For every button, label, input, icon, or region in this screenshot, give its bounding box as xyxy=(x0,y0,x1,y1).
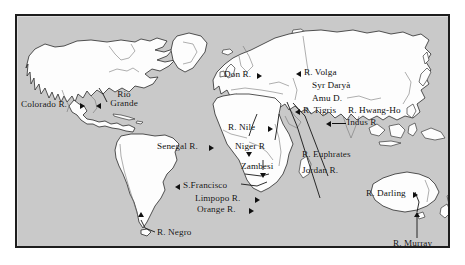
arrow-don-river xyxy=(257,73,262,79)
label-nile-river: R. Nile xyxy=(228,123,255,133)
label-limpopo-river: Limpopo R. xyxy=(195,194,240,204)
label-jordan-river: Jordan R. xyxy=(302,166,338,176)
label-colorado-river: Colorado R. xyxy=(21,100,67,110)
label-orange-river: Orange R. xyxy=(197,205,236,215)
island-iceland xyxy=(222,49,233,55)
label-don-river: Don R. xyxy=(224,70,251,80)
label-negro-river: R. Negro xyxy=(157,228,191,238)
label-hwang-ho-river: R. Hwang-Ho xyxy=(348,106,401,116)
arrow-orange-river xyxy=(249,208,254,214)
island-cuba xyxy=(113,114,135,120)
label-indus-river: Indus R xyxy=(347,118,377,128)
island-new-guinea xyxy=(421,128,445,140)
arrow-zambesi-river xyxy=(260,173,266,178)
island-hispaniola xyxy=(136,121,143,124)
arrow-volga-river xyxy=(296,71,301,77)
label-rio-grande: Rio Grande xyxy=(104,90,144,108)
label-syr-darya-river: Syr Daryà xyxy=(312,81,350,91)
arrow-murray-river xyxy=(414,212,420,217)
arrow-negro-river xyxy=(138,212,144,217)
leader-tick-indus xyxy=(332,123,346,124)
arrow-rio-grande xyxy=(96,103,101,109)
landmass-north-america xyxy=(26,38,175,102)
island-new-zealand-north xyxy=(447,192,448,204)
label-sao-francisco-river: S.Francisco xyxy=(183,181,227,191)
label-amu-darya-river: Amu D. xyxy=(312,94,342,104)
world-rivers-map-figure: Colorado R. Rio Grande Don R. R. Volga S… xyxy=(0,0,465,265)
label-euphrates-river: R. Euphrates xyxy=(302,150,351,160)
label-zambesi-river: Zambesi xyxy=(241,162,273,172)
island-sulawesi xyxy=(408,123,417,136)
island-new-zealand-south xyxy=(440,204,448,218)
island-borneo xyxy=(389,124,405,138)
landmass-greenland xyxy=(171,33,207,72)
arrow-tigris-river xyxy=(295,109,300,115)
arrow-colorado-river xyxy=(80,103,85,109)
label-niger-river: Niger R xyxy=(235,142,265,152)
label-tigris-river: R. Tigris xyxy=(303,106,336,116)
map-frame: Colorado R. Rio Grande Don R. R. Volga S… xyxy=(15,14,450,248)
label-volga-river: R. Volga xyxy=(304,68,337,78)
arrow-senegal-river xyxy=(209,145,214,151)
island-java xyxy=(379,141,401,146)
arrow-darling-river xyxy=(413,192,418,198)
arrow-nile-river xyxy=(268,126,273,132)
arrow-limpopo-river xyxy=(255,197,260,203)
arrow-niger-river xyxy=(246,152,252,157)
arrow-indus-river xyxy=(326,121,331,127)
label-senegal-river: Senegal R. xyxy=(157,142,198,152)
arrow-sao-francisco-river xyxy=(175,184,180,190)
label-murray-river: R. Murray xyxy=(393,239,432,248)
label-darling-river: R. Darling xyxy=(366,189,406,199)
